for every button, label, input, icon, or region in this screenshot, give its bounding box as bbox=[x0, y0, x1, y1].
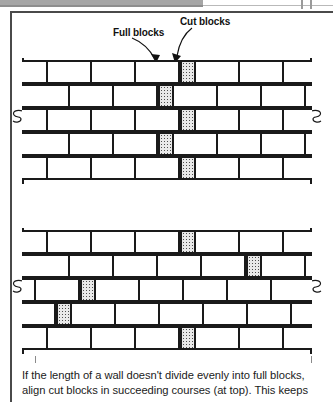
full-block bbox=[262, 256, 306, 276]
full-block bbox=[22, 86, 70, 106]
full-block bbox=[262, 134, 306, 154]
page-top-rule bbox=[203, 5, 333, 6]
block-course bbox=[22, 132, 312, 156]
full-block bbox=[22, 232, 48, 252]
full-block bbox=[136, 62, 180, 82]
full-block bbox=[158, 256, 202, 276]
full-block bbox=[36, 280, 80, 300]
full-block bbox=[196, 62, 240, 82]
block-course bbox=[22, 326, 312, 350]
scan-artifact-bar-shadow bbox=[0, 5, 203, 7]
full-block bbox=[204, 304, 248, 324]
full-block bbox=[174, 134, 218, 154]
caption-rule-tick-right bbox=[311, 356, 312, 363]
full-block bbox=[114, 256, 158, 276]
full-block bbox=[136, 328, 180, 348]
full-block bbox=[196, 328, 240, 348]
full-block bbox=[284, 328, 312, 348]
figure-caption: If the length of a wall doesn't divide e… bbox=[22, 368, 318, 398]
full-block bbox=[306, 86, 312, 106]
cut-block bbox=[180, 328, 196, 348]
block-course bbox=[22, 156, 312, 180]
full-block bbox=[196, 110, 240, 130]
full-block bbox=[22, 256, 70, 276]
block-course bbox=[22, 278, 312, 302]
full-block bbox=[48, 328, 92, 348]
full-block bbox=[184, 280, 228, 300]
block-course bbox=[22, 230, 312, 254]
full-block bbox=[196, 232, 240, 252]
cut-block bbox=[158, 86, 174, 106]
cut-block bbox=[180, 232, 196, 252]
full-block bbox=[240, 232, 284, 252]
full-block bbox=[306, 256, 312, 276]
full-block bbox=[22, 280, 36, 300]
cut-block bbox=[246, 256, 262, 276]
page-tick-mark-left bbox=[301, 0, 303, 9]
block-course bbox=[22, 84, 312, 108]
figure-page: Full blocks Cut blocks If the length of bbox=[0, 0, 333, 402]
full-block bbox=[160, 304, 204, 324]
figure-frame-left-rule bbox=[10, 11, 12, 402]
full-block bbox=[72, 304, 116, 324]
full-block bbox=[240, 158, 284, 178]
full-block bbox=[136, 158, 180, 178]
cut-block bbox=[56, 304, 72, 324]
full-block bbox=[96, 280, 140, 300]
page-tick-mark-right bbox=[310, 0, 312, 9]
full-block bbox=[228, 280, 272, 300]
full-block bbox=[48, 232, 92, 252]
full-block bbox=[306, 134, 312, 154]
full-block bbox=[22, 304, 56, 324]
full-block bbox=[218, 86, 262, 106]
cut-block bbox=[80, 280, 96, 300]
caption-line: align cut blocks in succeeding courses (… bbox=[22, 383, 318, 398]
full-block bbox=[70, 134, 114, 154]
cut-block bbox=[158, 134, 174, 154]
full-block bbox=[48, 62, 92, 82]
full-block bbox=[114, 86, 158, 106]
full-block bbox=[140, 280, 184, 300]
full-block bbox=[174, 86, 218, 106]
cut-block bbox=[180, 158, 196, 178]
block-course bbox=[22, 254, 312, 278]
full-block bbox=[240, 328, 284, 348]
full-block bbox=[22, 328, 48, 348]
full-block bbox=[284, 62, 312, 82]
full-block bbox=[70, 86, 114, 106]
full-block bbox=[240, 62, 284, 82]
full-block bbox=[70, 256, 114, 276]
full-block bbox=[284, 158, 312, 178]
figure-frame-top-rule bbox=[10, 11, 333, 13]
full-block bbox=[272, 280, 312, 300]
full-block bbox=[284, 232, 312, 252]
full-block bbox=[292, 304, 312, 324]
full-block bbox=[114, 134, 158, 154]
full-block bbox=[262, 86, 306, 106]
full-block bbox=[48, 110, 92, 130]
block-course bbox=[22, 60, 312, 84]
block-course bbox=[22, 108, 312, 132]
full-block bbox=[48, 158, 92, 178]
wall-diagram-staggered-cut-blocks bbox=[22, 228, 312, 354]
caption-line: If the length of a wall doesn't divide e… bbox=[22, 368, 318, 383]
full-block bbox=[240, 110, 284, 130]
block-course bbox=[22, 302, 312, 326]
full-block bbox=[22, 158, 48, 178]
full-block bbox=[136, 110, 180, 130]
full-block bbox=[248, 304, 292, 324]
caption-rule-tick-left bbox=[35, 356, 36, 363]
full-block bbox=[284, 110, 312, 130]
full-block bbox=[136, 232, 180, 252]
full-block bbox=[92, 158, 136, 178]
full-block bbox=[116, 304, 160, 324]
full-block bbox=[202, 256, 246, 276]
full-block bbox=[92, 62, 136, 82]
wall-diagram-aligned-cut-blocks bbox=[22, 58, 312, 184]
full-block bbox=[92, 232, 136, 252]
full-block bbox=[218, 134, 262, 154]
full-block bbox=[22, 62, 48, 82]
cut-block bbox=[180, 110, 196, 130]
full-block bbox=[92, 110, 136, 130]
full-block bbox=[22, 134, 70, 154]
